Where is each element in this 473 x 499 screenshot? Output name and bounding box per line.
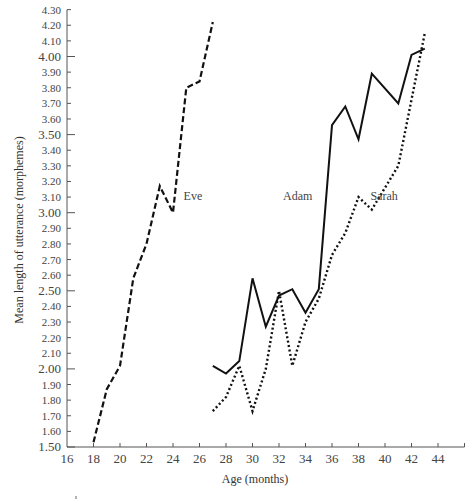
x-tick-label: 22 [140,451,153,466]
y-tick-label: 3.90 [42,66,62,78]
x-tick-label: 28 [220,451,233,466]
y-tick-label: 2.20 [42,332,62,344]
y-tick-label: 3.10 [42,191,62,203]
x-axis-label: Age (months) [222,472,288,486]
series-lines [94,22,425,442]
series-labels: EveAdamSarah [184,189,398,203]
y-tick-label: 1.80 [42,394,62,406]
x-tick-label: 16 [61,451,75,466]
x-tick-label: 20 [114,451,127,466]
y-tick-label: 2.50 [38,283,61,298]
y-tick-label: 3.00 [38,205,61,220]
y-tick-label: 2.40 [42,300,62,312]
y-tick-label: 1.90 [42,379,62,391]
y-tick-label: 2.30 [42,316,62,328]
x-tick-label: 18 [87,451,100,466]
y-tick-label: 3.80 [42,82,62,94]
y-tick-label: 4.00 [38,49,61,64]
mlu-line-chart: 1.501.601.701.801.902.002.102.202.302.40… [0,0,473,499]
series-adam-label: Adam [283,189,313,203]
series-sarah-label: Sarah [370,189,397,203]
x-tick-label: 34 [299,451,313,466]
y-tick-label: 1.60 [42,425,62,437]
y-tick-label: 3.30 [42,160,62,172]
y-tick-label: 3.40 [42,144,62,156]
y-tick-label: 4.20 [42,19,62,31]
y-tick-label: 3.60 [42,113,62,125]
y-tick-label: 1.70 [42,410,62,422]
y-axis-label: Mean length of utterance (morphemes) [12,136,26,323]
x-tick-label: 44 [432,451,446,466]
y-tick-label: 2.70 [42,254,62,266]
y-tick-label: 2.90 [42,222,62,234]
y-tick-label: 3.50 [38,127,61,142]
y-tick-label: 4.10 [42,35,62,47]
series-eve-line [94,22,213,442]
y-tick-label: 3.70 [42,97,62,109]
x-tick-label: 38 [352,451,365,466]
series-eve-label: Eve [184,189,203,203]
series-adam-line [213,49,425,374]
x-tick-label: 24 [167,451,181,466]
y-tick-label: 2.80 [42,238,62,250]
x-tick-label: 30 [246,451,259,466]
y-tick-label: 4.30 [42,4,62,16]
y-tick-label: 1.50 [38,439,61,454]
x-tick-label: 32 [273,451,286,466]
x-tick-label: 42 [405,451,418,466]
y-tick-label: 2.00 [38,361,61,376]
x-tick-label: 40 [379,451,392,466]
axes: 1.501.601.701.801.902.002.102.202.302.40… [38,4,464,466]
series-sarah-line [213,33,425,411]
x-tick-label: 26 [193,451,207,466]
y-tick-label: 3.20 [42,175,62,187]
x-tick-label: 36 [326,451,340,466]
y-tick-label: 2.60 [42,269,62,281]
y-tick-label: 2.10 [42,347,62,359]
